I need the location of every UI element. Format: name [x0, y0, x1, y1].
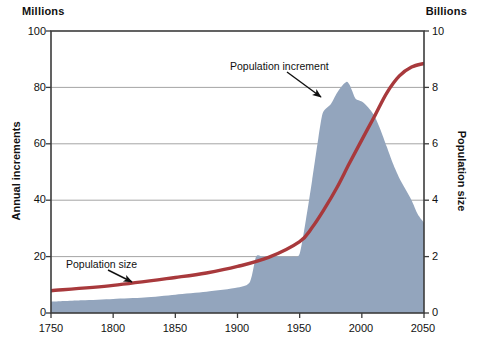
population-chart: Millions Billions Annual increments Popu… — [0, 0, 477, 349]
plot-canvas — [0, 0, 477, 349]
population-increment-area — [51, 82, 424, 313]
arrow-population-increment — [287, 72, 321, 97]
arrow-population-size — [108, 270, 132, 282]
